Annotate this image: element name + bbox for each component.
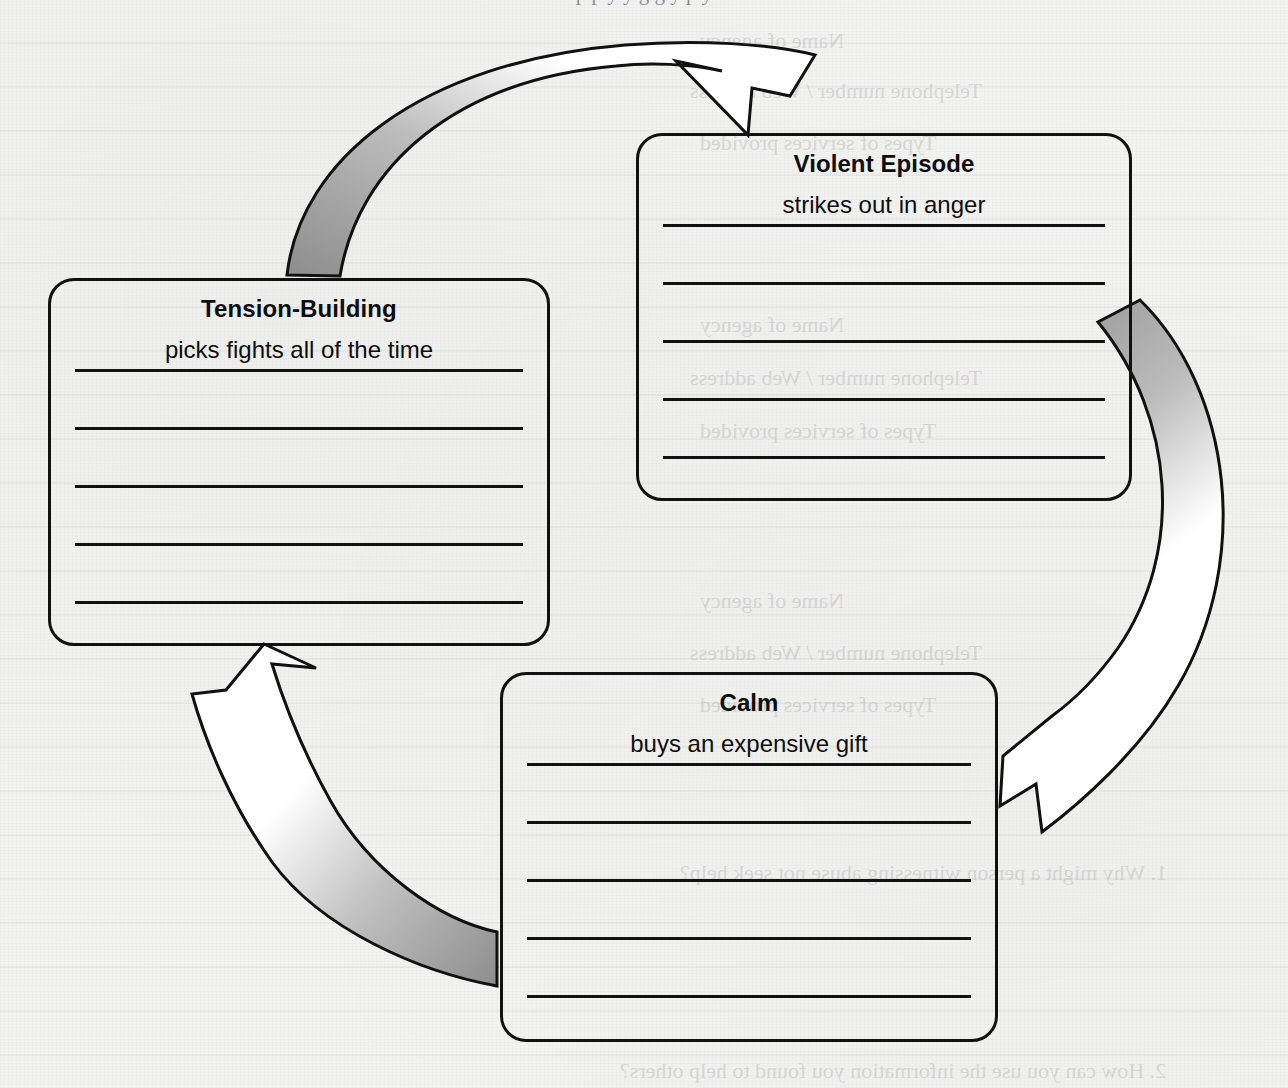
writing-line[interactable] [75, 601, 523, 604]
writing-line[interactable] [75, 485, 523, 488]
stage-writing-lines-violent-episode [639, 136, 1129, 498]
writing-line[interactable] [527, 879, 971, 882]
writing-line[interactable] [663, 456, 1105, 459]
stage-writing-lines-calm [503, 675, 995, 1039]
stage-card-calm[interactable]: Calm buys an expensive gift [500, 672, 998, 1042]
stage-card-violent-episode[interactable]: Violent Episode strikes out in anger [636, 133, 1132, 501]
writing-line[interactable] [527, 995, 971, 998]
worksheet-page: p p y y g g y p y Name of agency Telepho… [0, 0, 1288, 1088]
ghost-line: Telephone number / Web address [690, 78, 982, 104]
ghost-line: 2. How can you use the information you f… [620, 1058, 1166, 1084]
ghost-line: Name of agency [700, 28, 844, 54]
writing-line[interactable] [527, 937, 971, 940]
stage-card-tension-building[interactable]: Tension-Building picks fights all of the… [48, 278, 550, 646]
ghost-line: Name of agency [700, 588, 844, 614]
writing-line[interactable] [75, 369, 523, 372]
arrow-calm-to-tension [192, 644, 497, 986]
writing-line[interactable] [75, 427, 523, 430]
ghost-line: Telephone number / Web address [690, 640, 982, 666]
clipped-heading-descenders: p p y y g g y p y [0, 0, 1288, 6]
writing-line[interactable] [663, 282, 1105, 285]
writing-line[interactable] [75, 543, 523, 546]
writing-line[interactable] [663, 224, 1105, 227]
writing-line[interactable] [527, 763, 971, 766]
writing-line[interactable] [663, 398, 1105, 401]
writing-line[interactable] [527, 821, 971, 824]
writing-line[interactable] [663, 340, 1105, 343]
stage-writing-lines-tension-building [51, 281, 547, 643]
